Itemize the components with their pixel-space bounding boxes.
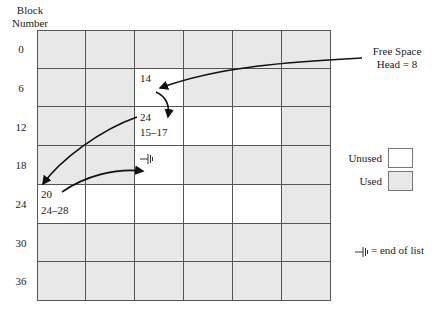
block-cell-4-used xyxy=(233,30,282,69)
legend-used-label: Used xyxy=(322,175,382,187)
block-number-header: Block Number xyxy=(0,4,60,30)
block-cell-34-used xyxy=(233,224,282,263)
row-label-0: 0 xyxy=(6,43,36,55)
end-of-list-note: = end of list xyxy=(371,244,424,256)
disk-block-grid xyxy=(37,30,331,301)
block-cell-30-used xyxy=(37,224,86,263)
block-cell-5-used xyxy=(282,30,331,69)
block-cell-29-used xyxy=(282,185,331,224)
block-cell-1-used xyxy=(86,30,135,69)
block-cell-6-used xyxy=(37,69,86,108)
block-cell-19-used xyxy=(86,146,135,185)
block-cell-35-used xyxy=(282,224,331,263)
block-cell-40-used xyxy=(233,262,282,301)
free-space-head-label: Free Space Head = 8 xyxy=(362,45,432,71)
block-cell-41-used xyxy=(282,262,331,301)
free-space-line2: Head = 8 xyxy=(362,58,432,71)
block-cell-9-used xyxy=(184,69,233,108)
legend-used-swatch xyxy=(388,171,413,191)
block-cell-18-used xyxy=(37,146,86,185)
block-8-pointer: 14 xyxy=(140,72,151,84)
block-cell-7-used xyxy=(86,69,135,108)
block-cell-36-used xyxy=(37,262,86,301)
block-cell-3-used xyxy=(184,30,233,69)
block-cell-22-used xyxy=(233,146,282,185)
block-24-pointer: 20 xyxy=(41,188,52,200)
block-cell-17-used xyxy=(282,107,331,146)
free-space-line1: Free Space xyxy=(362,45,432,58)
block-cell-37-used xyxy=(86,262,135,301)
row-label-6: 6 xyxy=(6,82,36,94)
row-label-36: 36 xyxy=(6,275,36,287)
block-cell-10-used xyxy=(233,69,282,108)
block-cell-15-unused xyxy=(184,107,233,146)
block-cell-16-unused xyxy=(233,107,282,146)
header-line1: Block xyxy=(0,4,60,17)
block-14-range: 15–17 xyxy=(140,126,168,138)
block-cell-21-used xyxy=(184,146,233,185)
legend-unused-label: Unused xyxy=(322,152,382,164)
block-cell-33-used xyxy=(184,224,233,263)
row-label-12: 12 xyxy=(6,121,36,133)
block-cell-27-unused xyxy=(184,185,233,224)
header-line2: Number xyxy=(0,17,60,30)
block-cell-28-unused xyxy=(233,185,282,224)
block-cell-32-used xyxy=(135,224,184,263)
block-cell-38-used xyxy=(135,262,184,301)
block-cell-31-used xyxy=(86,224,135,263)
row-label-18: 18 xyxy=(6,159,36,171)
legend-unused-swatch xyxy=(388,148,413,168)
block-cell-25-unused xyxy=(86,185,135,224)
block-cell-12-used xyxy=(37,107,86,146)
row-label-30: 30 xyxy=(6,237,36,249)
end-of-list-legend-icon xyxy=(355,244,369,262)
block-cell-39-used xyxy=(184,262,233,301)
block-cell-11-used xyxy=(282,69,331,108)
block-cell-13-used xyxy=(86,107,135,146)
block-14-pointer: 24 xyxy=(140,111,151,123)
block-cell-2-used xyxy=(135,30,184,69)
block-24-range: 24–28 xyxy=(41,204,69,216)
block-cell-26-unused xyxy=(135,185,184,224)
block-cell-0-used xyxy=(37,30,86,69)
row-label-24: 24 xyxy=(6,198,36,210)
end-of-list-icon xyxy=(140,151,154,169)
